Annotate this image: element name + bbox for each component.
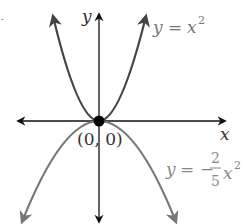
upper-label-base: x — [187, 17, 197, 37]
upper-parabola-right-branch — [99, 16, 146, 121]
stray-mark: . — [1, 11, 4, 22]
y-axis-label: y — [81, 6, 92, 26]
upper-label-eq: = — [168, 17, 182, 37]
lower-label-frac-num: 2 — [211, 150, 220, 166]
parabola-graph: . y x (0, 0) y = x 2 y = − 2 5 x 2 — [0, 0, 247, 224]
lower-label-eq: = − — [180, 159, 214, 179]
lower-label-exponent: 2 — [234, 159, 241, 172]
origin-point — [94, 116, 105, 127]
upper-label-exponent: 2 — [198, 14, 205, 27]
upper-parabola-left-branch — [53, 16, 99, 121]
x-axis-label: x — [220, 124, 230, 144]
lower-label-frac-den: 5 — [211, 173, 220, 189]
lower-label-base: x — [223, 163, 233, 183]
origin-label: (0, 0) — [77, 129, 123, 149]
upper-label-lhs: y — [152, 17, 163, 37]
upper-parabola-label: y = x 2 — [152, 14, 205, 37]
lower-label-lhs: y — [165, 159, 176, 179]
lower-parabola-label: y = − 2 5 x 2 — [165, 150, 241, 189]
